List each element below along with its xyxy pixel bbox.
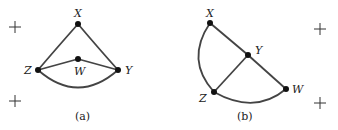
- label-x: X: [73, 7, 83, 20]
- node-z: [211, 89, 217, 95]
- edge-y-w: [248, 55, 286, 89]
- figure-b: X Y Z W (b): [198, 7, 305, 123]
- label-w: W: [292, 83, 305, 96]
- node-x: [75, 21, 81, 27]
- node-w: [283, 86, 289, 92]
- label-w: W: [74, 65, 87, 78]
- node-y: [115, 67, 121, 73]
- node-x: [207, 20, 213, 26]
- edge-z-w: [38, 59, 78, 70]
- label-y: Y: [255, 44, 264, 57]
- edge-x-z: [198, 23, 214, 92]
- edge-y-z: [214, 55, 248, 92]
- label-y: Y: [125, 64, 134, 77]
- node-z: [35, 67, 41, 73]
- graph-figures: X Z W Y (a) X Y Z W (b): [0, 0, 338, 130]
- label-z: Z: [23, 64, 32, 77]
- edge-x-z: [38, 24, 78, 70]
- caption-a: (a): [75, 110, 90, 123]
- node-y: [245, 52, 251, 58]
- edge-x-y: [78, 24, 118, 70]
- node-w: [75, 56, 81, 62]
- figure-a: X Z W Y (a): [23, 7, 134, 123]
- label-x: X: [205, 7, 215, 20]
- caption-b: (b): [237, 110, 253, 123]
- edge-z-w: [214, 89, 286, 103]
- edge-x-y: [210, 23, 248, 55]
- label-z: Z: [198, 92, 207, 105]
